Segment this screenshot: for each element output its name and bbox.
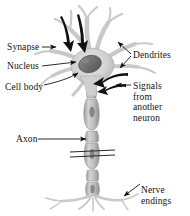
label-signals-from-another-neuron: Signals from another neuron [133, 81, 189, 123]
myelinated-axon [84, 80, 100, 196]
label-dendrites: Dendrites [133, 50, 171, 61]
label-signals-line-4: neuron [133, 113, 189, 124]
label-nerve-endings: Nerve endings [141, 185, 190, 206]
label-nucleus: Nucleus [7, 61, 39, 72]
label-signals-line-1: Signals [133, 81, 189, 92]
label-nerve-line-2: endings [141, 196, 190, 207]
label-axon: Axon [16, 134, 38, 145]
neuron-diagram-figure: Synapse Nucleus Cell body Axon Dendrites… [0, 0, 190, 216]
label-nerve-line-1: Nerve [141, 185, 190, 196]
label-cell-body: Cell body [5, 82, 43, 93]
leader-cell-body [44, 73, 78, 85]
nerve-ending-branches [46, 194, 138, 211]
label-signals-line-3: another [133, 102, 189, 113]
label-synapse: Synapse [7, 42, 39, 53]
label-signals-line-2: from [133, 92, 189, 103]
